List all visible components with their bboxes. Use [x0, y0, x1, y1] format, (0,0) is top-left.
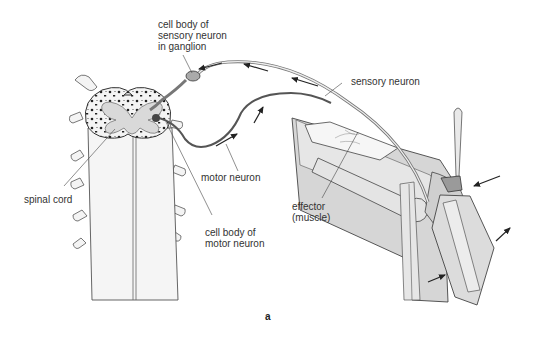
- label-motor-neuron: motor neuron: [201, 172, 260, 183]
- reflex-arc-diagram: [0, 0, 538, 338]
- label-effector-muscle: effector (muscle): [292, 201, 330, 223]
- label-spinal-cord: spinal cord: [24, 194, 72, 205]
- label-cell-body-motor-neuron: cell body of motor neuron: [205, 227, 264, 249]
- spinal-cord-illustration: [69, 75, 185, 300]
- label-sensory-neuron: sensory neuron: [351, 76, 420, 87]
- label-cell-body-sensory-neuron: cell body of sensory neuron in ganglion: [158, 19, 227, 52]
- panel-label: a: [265, 311, 271, 322]
